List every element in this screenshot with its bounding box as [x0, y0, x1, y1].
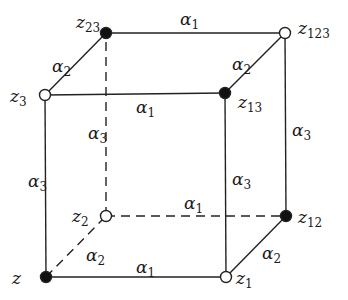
edge-z1-z12	[226, 216, 286, 277]
edge-label-alpha3: α3	[292, 120, 311, 143]
node-z13-filled	[220, 88, 231, 99]
node-label-z13: z13	[237, 92, 262, 115]
node-z1-open	[221, 272, 232, 283]
node-label-z12: z12	[297, 207, 322, 230]
edge-label-alpha3: α3	[28, 171, 47, 194]
edge-label-alpha2: α2	[262, 243, 281, 266]
node-z23-filled	[101, 28, 112, 39]
node-label-z23: z23	[75, 12, 100, 35]
node-z2-open	[101, 211, 112, 222]
edge-label-alpha1: α1	[136, 97, 155, 120]
node-label-z1: z1	[235, 268, 253, 291]
node-z12-filled	[281, 211, 292, 222]
edge-label-alpha1: α1	[180, 9, 199, 32]
edge-label-alpha3: α3	[232, 169, 251, 192]
edge-label-alpha2: α2	[86, 245, 105, 268]
node-label-z2: z2	[71, 206, 89, 229]
edge-label-alpha1: α1	[136, 257, 155, 280]
node-z123-open	[280, 28, 291, 39]
edge-label-alpha2: α2	[52, 56, 71, 79]
node-label-z123: z123	[297, 18, 330, 41]
edge-label-alpha3: α3	[88, 123, 107, 146]
node-label-z3: z3	[9, 86, 27, 109]
cube-diagram: α1α1α1α1α2α2α2α2α3α3α3α3 zz1z2z3z12z13z2…	[0, 0, 348, 300]
node-label-z: z	[11, 268, 22, 288]
node-labels-layer: zz1z2z3z12z13z23z123	[9, 12, 330, 291]
edge-label-alpha2: α2	[232, 54, 251, 77]
node-z3-open	[40, 90, 51, 101]
edge-label-alpha1: α1	[184, 193, 203, 216]
edge-z12-z123	[285, 33, 286, 216]
node-z-filled	[41, 272, 52, 283]
edge-z3-z13	[45, 93, 225, 95]
edge-z1-z13	[225, 93, 226, 277]
